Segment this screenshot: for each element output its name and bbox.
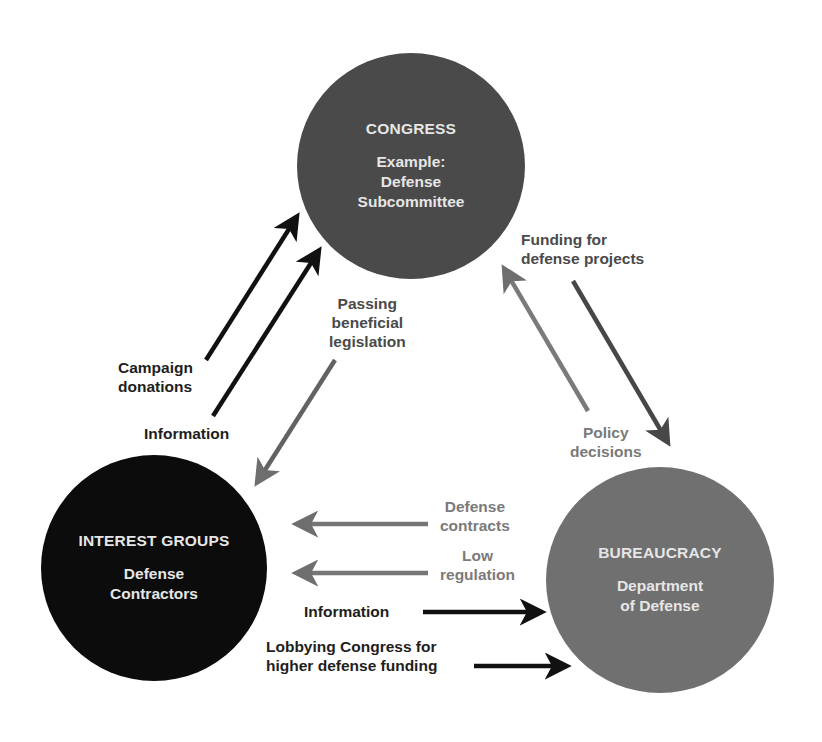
campaign-donations-arrow	[206, 218, 296, 360]
campaign-donations-label: Campaign donations	[118, 358, 193, 396]
defense-contracts-label: Defense contracts	[440, 497, 510, 535]
policy-decisions-arrow	[505, 270, 588, 411]
funding-arrow	[573, 281, 667, 441]
passing-legislation-label: Passing beneficial legislation	[329, 294, 406, 351]
information-to-congress-arrow	[213, 252, 318, 416]
lobbying-label: Lobbying Congress for higher defense fun…	[266, 637, 437, 675]
passing-legislation-arrow	[258, 360, 335, 481]
information-to-congress-label: Information	[144, 424, 229, 443]
policy-decisions-label: Policy decisions	[570, 423, 642, 461]
funding-label: Funding for defense projects	[521, 230, 644, 268]
low-regulation-label: Low regulation	[440, 546, 515, 584]
information-to-bureaucracy-label: Information	[304, 602, 389, 621]
iron-triangle-diagram: CONGRESS Example: Defense Subcommittee I…	[0, 0, 822, 742]
